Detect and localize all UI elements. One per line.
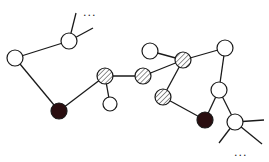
node-B-white — [61, 33, 77, 49]
ellipsis-annotation: ... — [234, 146, 248, 159]
edge-C-D — [59, 76, 105, 111]
node-F-hatched — [135, 68, 151, 84]
node-G-white — [142, 43, 158, 59]
node-J-white — [217, 40, 233, 56]
node-D-hatched — [97, 68, 113, 84]
node-C-black — [51, 103, 67, 119]
node-E-white — [103, 97, 117, 111]
nodes-group — [7, 33, 243, 130]
edges-group — [15, 41, 235, 122]
node-A-white — [7, 50, 23, 66]
node-H-hatched — [175, 52, 191, 68]
ellipsis-annotation: ... — [83, 6, 97, 19]
edge-A-C — [15, 58, 59, 111]
node-K-white — [211, 82, 227, 98]
network-diagram: ...... — [0, 0, 269, 162]
node-M-white — [227, 114, 243, 130]
node-I-hatched — [155, 89, 171, 105]
node-L-black — [197, 112, 213, 128]
